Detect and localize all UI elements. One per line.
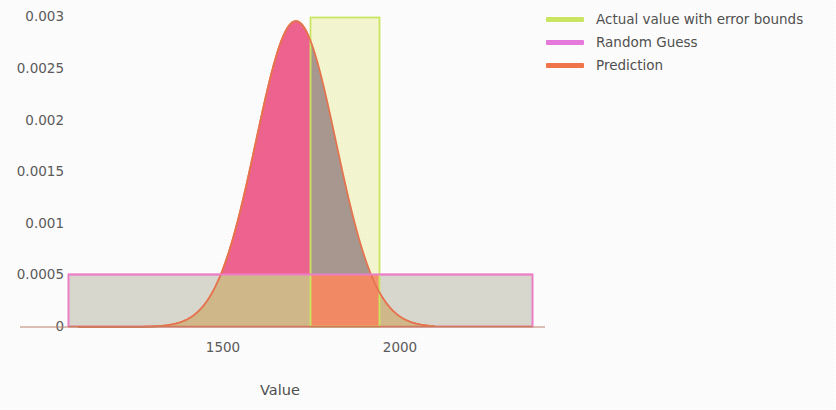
x-axis: 1500 2000 bbox=[0, 341, 560, 363]
x-axis-title: Value bbox=[0, 382, 560, 398]
x-tick-label: 1500 bbox=[206, 341, 240, 355]
legend-swatch-prediction bbox=[546, 63, 584, 68]
legend-item-actual-value: Actual value with error bounds bbox=[546, 8, 836, 31]
x-tick-label: 2000 bbox=[383, 341, 417, 355]
plot-area bbox=[0, 0, 560, 340]
legend-label-actual-value: Actual value with error bounds bbox=[596, 13, 803, 27]
legend-item-prediction: Prediction bbox=[546, 54, 836, 77]
chart-figure: 0.003 0.0025 0.002 0.0015 0.001 0.0005 0 bbox=[0, 0, 836, 410]
legend-label-random-guess: Random Guess bbox=[596, 36, 698, 50]
legend-swatch-random-guess bbox=[546, 40, 584, 45]
legend-item-random-guess: Random Guess bbox=[546, 31, 836, 54]
plot-svg bbox=[0, 0, 560, 340]
legend-swatch-actual-value bbox=[546, 17, 584, 22]
chart-legend: Actual value with error bounds Random Gu… bbox=[546, 8, 836, 77]
legend-label-prediction: Prediction bbox=[596, 59, 663, 73]
